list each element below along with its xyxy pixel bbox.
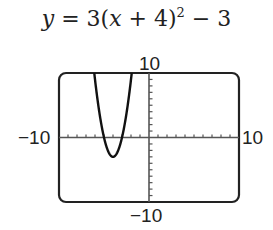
axes: [59, 73, 239, 202]
y-max-label: 10: [139, 54, 160, 73]
graph-window: [0, 0, 273, 230]
y-min-label: −10: [130, 206, 162, 225]
parabola-curve: [92, 54, 133, 156]
x-max-label: 10: [242, 128, 263, 147]
x-min-label: −10: [18, 128, 50, 147]
